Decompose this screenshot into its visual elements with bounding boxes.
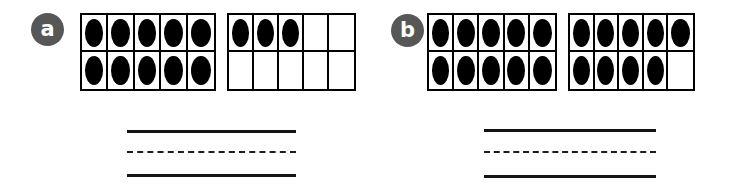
ten-frame-cell-empty[interactable] — [279, 52, 304, 89]
counter-dot — [257, 19, 274, 47]
ten-frame-cell[interactable] — [505, 52, 530, 89]
part-label-badge-b: b — [391, 14, 424, 47]
writing-line-top — [127, 130, 296, 133]
ten-frame-cell-empty[interactable] — [668, 52, 693, 89]
counter-dot — [597, 19, 614, 47]
ten-frame-cell-empty[interactable] — [229, 52, 254, 89]
counter-dot — [622, 19, 639, 47]
ten-frame-cell[interactable] — [279, 15, 304, 52]
ten-frame-a-1[interactable] — [80, 13, 216, 91]
counter-dot — [507, 19, 525, 47]
ten-frame-cell[interactable] — [429, 15, 454, 52]
ten-frame-cell[interactable] — [644, 15, 669, 52]
ten-frame-cell[interactable] — [229, 15, 254, 52]
writing-line-bottom — [484, 175, 656, 178]
ten-frame-cell[interactable] — [619, 52, 644, 89]
ten-frame-b-1[interactable] — [427, 13, 557, 91]
ten-frame-cell[interactable] — [595, 52, 620, 89]
ten-frame-cell[interactable] — [454, 52, 479, 89]
counter-dot-empty — [307, 19, 324, 47]
problem-a: a — [0, 0, 380, 183]
ten-frame-cell[interactable] — [135, 15, 161, 52]
ten-frame-cell[interactable] — [668, 15, 693, 52]
ten-frame-cell[interactable] — [135, 52, 161, 89]
counter-dot-empty — [332, 56, 351, 86]
counter-dot — [138, 19, 157, 47]
counter-dot-empty — [232, 56, 249, 86]
counter-dot — [573, 19, 590, 47]
ten-frame-cell[interactable] — [188, 52, 214, 89]
ten-frame-cell[interactable] — [108, 15, 134, 52]
ten-frame-cell-empty[interactable] — [329, 15, 354, 52]
ten-frame-cell[interactable] — [161, 15, 187, 52]
ten-frame-cell-empty[interactable] — [304, 52, 329, 89]
ten-frame-cell[interactable] — [188, 15, 214, 52]
ten-frame-cell[interactable] — [108, 52, 134, 89]
counter-dot — [457, 56, 475, 86]
counter-dot — [533, 19, 552, 47]
counter-dot — [622, 56, 639, 86]
ten-frame-cell[interactable] — [429, 52, 454, 89]
counter-dot — [482, 19, 500, 47]
counter-dot — [647, 56, 664, 86]
counter-dot — [457, 19, 475, 47]
ten-frame-cell[interactable] — [82, 52, 108, 89]
counter-dot — [671, 19, 690, 47]
counter-dot-empty — [282, 56, 299, 86]
ten-frame-cell-empty[interactable] — [254, 52, 279, 89]
counter-dot-empty — [307, 56, 324, 86]
ten-frame-cell[interactable] — [619, 15, 644, 52]
writing-line-top — [484, 129, 656, 132]
ten-frame-cell[interactable] — [454, 15, 479, 52]
counter-dot-empty — [332, 19, 351, 47]
counter-dot — [111, 56, 130, 86]
counter-dot — [111, 19, 130, 47]
ten-frame-cell[interactable] — [595, 15, 620, 52]
writing-line-middle-dashed — [127, 151, 296, 153]
problem-b: b — [380, 0, 733, 183]
part-label-badge-a: a — [31, 13, 64, 46]
ten-frame-cell[interactable] — [479, 52, 504, 89]
writing-line-bottom — [127, 174, 296, 177]
ten-frame-cell[interactable] — [570, 52, 595, 89]
ten-frame-cell[interactable] — [254, 15, 279, 52]
ten-frame-cell[interactable] — [82, 15, 108, 52]
writing-line-middle-dashed — [484, 151, 656, 153]
counter-dot — [164, 56, 183, 86]
ten-frame-a-2[interactable] — [227, 13, 356, 91]
counter-dot — [507, 56, 525, 86]
ten-frame-cell-empty[interactable] — [304, 15, 329, 52]
ten-frame-cell-empty[interactable] — [329, 52, 354, 89]
counter-dot-empty — [671, 56, 690, 86]
counter-dot — [482, 56, 500, 86]
counter-dot — [138, 56, 157, 86]
counter-dot-empty — [257, 56, 274, 86]
ten-frame-cell[interactable] — [505, 15, 530, 52]
counter-dot — [573, 56, 590, 86]
counter-dot — [191, 56, 211, 86]
ten-frame-cell[interactable] — [530, 52, 555, 89]
counter-dot — [432, 56, 450, 86]
counter-dot — [232, 19, 249, 47]
ten-frame-cell[interactable] — [161, 52, 187, 89]
ten-frame-cell[interactable] — [479, 15, 504, 52]
worksheet-canvas: a — [0, 0, 733, 183]
ten-frame-cell[interactable] — [570, 15, 595, 52]
counter-dot — [597, 56, 614, 86]
ten-frame-cell[interactable] — [644, 52, 669, 89]
counter-dot — [191, 19, 211, 47]
ten-frame-b-2[interactable] — [568, 13, 695, 91]
ten-frame-cell[interactable] — [530, 15, 555, 52]
counter-dot — [282, 19, 299, 47]
counter-dot — [85, 56, 104, 86]
counter-dot — [432, 19, 450, 47]
counter-dot — [164, 19, 183, 47]
counter-dot — [85, 19, 104, 47]
counter-dot — [647, 19, 664, 47]
counter-dot — [533, 56, 552, 86]
